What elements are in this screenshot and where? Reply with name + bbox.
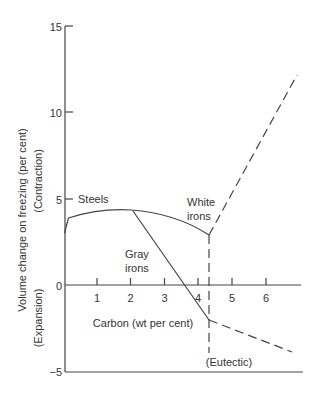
x-tick-label-1: 1	[94, 292, 100, 304]
x-tick-label-4: 4	[195, 292, 201, 304]
y-axis-expansion-label: (Expansion)	[32, 289, 44, 348]
y-tick-label-0: 0	[56, 280, 62, 292]
y-axis-contraction-label: (Contraction)	[32, 149, 44, 213]
label-gray: Gray	[125, 248, 149, 260]
y-tick-label-15: 15	[50, 21, 62, 33]
label-steels: Steels	[78, 193, 109, 205]
y-tick-label-neg5: −5	[49, 366, 62, 378]
label-white: White	[187, 196, 215, 208]
x-tick-label-5: 5	[229, 292, 235, 304]
y-axis-title: Volume change on freezing (per cent)	[16, 128, 28, 311]
volume-change-chart: 15 10 5 0 −5 1 2 3 4 5 6 Carbon (wt per …	[0, 0, 319, 399]
y-tick-label-10: 10	[50, 107, 62, 119]
label-white-irons: irons	[187, 210, 211, 222]
x-tick-label-2: 2	[127, 292, 133, 304]
y-tick-label-5: 5	[56, 194, 62, 206]
x-tick-label-6: 6	[263, 292, 269, 304]
white-irons-dashed-line	[209, 75, 297, 235]
label-eutectic: (Eutectic)	[206, 356, 252, 368]
gray-irons-dashed-line	[209, 320, 292, 352]
x-tick-label-3: 3	[161, 292, 167, 304]
label-gray-irons: irons	[125, 262, 149, 274]
x-axis-title: Carbon (wt per cent)	[93, 317, 193, 329]
